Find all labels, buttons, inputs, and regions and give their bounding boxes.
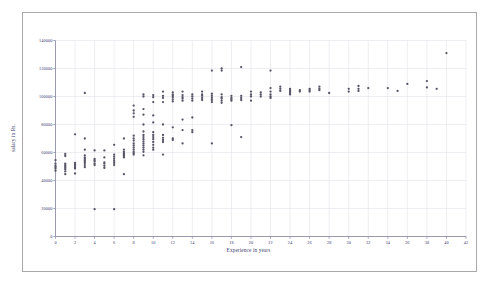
data-point [279,90,281,92]
data-point [133,142,135,144]
data-point [279,88,281,90]
data-point [152,114,154,116]
data-point [93,149,95,151]
data-point [201,95,203,97]
data-point [142,149,144,151]
data-point [172,100,174,102]
data-point [152,138,154,140]
data-point [162,90,164,92]
data-point [74,133,76,135]
data-point [221,69,223,71]
x-tick-label: 34 [380,240,396,245]
data-point [357,90,359,92]
data-point [162,97,164,99]
y-tick-label: 100000 [20,94,53,99]
data-point [133,139,135,141]
data-point [211,69,213,71]
data-point [181,90,183,92]
data-point [308,90,310,92]
data-point [328,92,330,94]
y-tick-label: 20000 [20,206,53,211]
data-point [279,86,281,88]
data-point [269,69,271,71]
data-point [152,131,154,133]
data-point [387,87,389,89]
x-tick-label: 38 [419,240,435,245]
data-point [211,101,213,103]
data-point [152,149,154,151]
data-point [260,91,262,93]
data-point [152,146,154,148]
data-point [133,104,135,106]
data-point [142,142,144,144]
data-point [172,91,174,93]
data-point [162,153,164,155]
data-point [240,136,242,138]
data-point [142,140,144,142]
data-point [133,112,135,114]
data-point [74,172,76,174]
data-point [172,98,174,100]
data-point [142,138,144,140]
data-point [123,173,125,175]
x-tick-label: 12 [165,240,181,245]
y-tick-label: 80000 [20,122,53,127]
data-point [142,123,144,125]
data-point [250,95,252,97]
data-point [172,139,174,141]
data-point [103,156,105,158]
y-tick-label: 40000 [20,178,53,183]
data-point [103,163,105,165]
data-point [133,144,135,146]
data-point [230,95,232,97]
data-point [269,87,271,89]
data-point [54,163,56,165]
y-axis-title: salary in Rs. [10,103,16,173]
data-point [113,164,115,166]
x-tick-label: 32 [360,240,376,245]
data-point [436,88,438,90]
data-point [181,129,183,131]
data-point [133,153,135,155]
data-point [211,93,213,95]
data-point [152,141,154,143]
x-tick-label: 8 [126,240,142,245]
x-tick-label: 14 [184,240,200,245]
data-point [162,123,164,125]
data-point [152,94,154,96]
x-tick-label: 10 [145,240,161,245]
data-point [269,90,271,92]
data-point [211,97,213,99]
data-point [103,165,105,167]
data-point [113,144,115,146]
x-tick-label: 16 [204,240,220,245]
data-point [260,93,262,95]
x-tick-label: 40 [438,240,454,245]
data-point [181,142,183,144]
data-point [133,137,135,139]
x-tick-label: 2 [67,240,83,245]
data-point [64,153,66,155]
data-point [152,144,154,146]
data-point [221,100,223,102]
data-point [133,146,135,148]
data-point [230,100,232,102]
data-point [426,80,428,82]
data-point [142,95,144,97]
data-point [142,151,144,153]
data-point [191,97,193,99]
data-point [152,121,154,123]
x-tick-label: 30 [341,240,357,245]
data-point [142,134,144,136]
x-tick-label: 42 [458,240,474,245]
data-point [260,95,262,97]
data-point [221,97,223,99]
data-point [152,136,154,138]
data-point [162,95,164,97]
data-point [142,93,144,95]
data-point [181,97,183,99]
data-point [93,208,95,210]
data-point [211,142,213,144]
data-point [113,160,115,162]
data-point [348,88,350,90]
